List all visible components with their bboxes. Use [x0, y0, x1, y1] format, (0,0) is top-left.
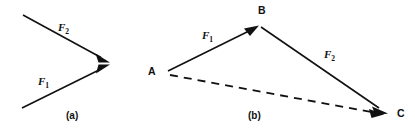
panel-b-point-label-a: A — [148, 66, 156, 77]
panel-a-vector-f1-arrowhead — [96, 65, 110, 74]
panel-a-label-f2-subscript: 2 — [65, 27, 69, 36]
panel-a-vector-f1-line — [22, 69, 101, 108]
panel-b-vector-f2-line — [261, 27, 379, 108]
panel-a-label-f1-subscript: 1 — [45, 81, 49, 90]
vector-addition-figure: F2 F1 (a) A B C F1 F2 (b) — [0, 0, 415, 134]
panel-b-label-f2: F2 — [324, 49, 335, 63]
panel-b-label-f2-subscript: 2 — [331, 54, 335, 63]
panel-b-vector-f1-arrowhead — [244, 26, 259, 37]
panel-a-label-f1: F1 — [38, 76, 49, 90]
panel-b-point-label-b: B — [258, 5, 266, 16]
panel-b-label-f1-subscript: 1 — [209, 35, 213, 44]
panel-a-caption: (a) — [66, 111, 78, 121]
panel-b-caption: (b) — [248, 111, 261, 121]
panel-a-label-f2: F2 — [58, 22, 69, 36]
panel-b-point-label-c: C — [397, 108, 405, 119]
panel-b-label-f1: F1 — [202, 30, 213, 44]
panel-b-graphics — [168, 26, 388, 119]
panel-b-resultant-dashed-line — [170, 75, 374, 113]
